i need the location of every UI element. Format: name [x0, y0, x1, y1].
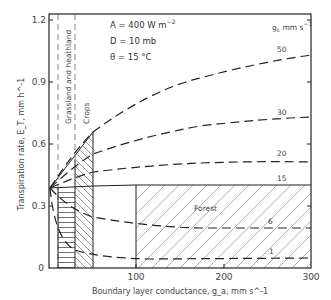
curve-label-1: 1 [269, 247, 274, 256]
x-tick-0: 0 [38, 263, 44, 273]
y-tick-1.2: 1.2 [32, 15, 46, 25]
x-axis-title: Boundary layer conductance, g_a, mm s^-1 [92, 287, 268, 296]
curve-label-15: 15 [277, 174, 287, 183]
condition-d: D = 10 mb [110, 36, 156, 46]
region-label-crops: Crops [82, 102, 91, 124]
condition-a: A = 400 W m−2 [110, 18, 176, 30]
x-tick-100: 100 [127, 272, 144, 282]
legend-title: gc mm s−1 [272, 20, 312, 33]
x-tick-200: 200 [215, 272, 232, 282]
chart-canvas: 1.2 0.9 0.6 0.3 0 100 200 300 Boundary l… [0, 0, 331, 300]
region-label-forest: Forest [194, 204, 217, 213]
y-axis-title: Transpiration rate, E_T, mm h^-1 [17, 78, 26, 212]
curve-label-20: 20 [277, 149, 287, 158]
y-tick-0.6: 0.6 [32, 139, 47, 149]
condition-theta: θ = 15 °C [110, 52, 151, 62]
curve-label-30: 30 [277, 108, 287, 117]
region-label-grassland: Grassland and heathland [64, 30, 73, 124]
y-tick-0.3: 0.3 [32, 201, 46, 211]
y-tick-0.9: 0.9 [32, 77, 47, 87]
region-forest [136, 185, 311, 268]
curve-label-6: 6 [268, 217, 273, 226]
curve-label-50: 50 [277, 45, 287, 54]
region-grassland [58, 188, 75, 268]
x-tick-300: 300 [302, 272, 319, 282]
